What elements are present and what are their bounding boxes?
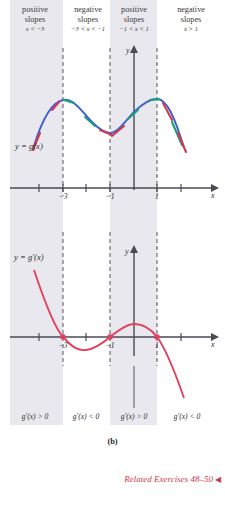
tangent-pos-b (85, 117, 95, 126)
related-exercises-text: Related Exercises 48–50 (124, 474, 213, 484)
upper-curve-label: y = g(x) (15, 141, 43, 151)
lower-tick-label-neg1: −1 (100, 341, 120, 350)
upper-x-axis-label: x (211, 191, 215, 200)
upper-tick-label-neg3: −3 (53, 192, 73, 201)
curve-g-prime (34, 270, 184, 398)
root-marker-pos1 (154, 334, 160, 340)
upper-dashed-guides (63, 48, 157, 196)
lower-tick-label-neg3: −3 (53, 341, 73, 350)
tangent-neg-d (112, 126, 124, 136)
lower-x-axis-label: x (211, 340, 215, 349)
tangent-pos-d (150, 99, 159, 100)
root-marker-neg1 (107, 334, 113, 340)
upper-tick-label-neg1: −1 (100, 192, 120, 201)
related-exercises: Related Exercises 48–50◀ (124, 474, 221, 484)
lower-y-axis-label: y (125, 247, 129, 256)
lower-tick-label-pos1: 1 (147, 341, 167, 350)
lower-curve-label: y = g′(x) (14, 252, 44, 262)
part-label: (b) (0, 437, 225, 446)
sign-interval-1: g′(x) > 0 (6, 412, 64, 421)
tangent-pos-a (64, 100, 74, 103)
upper-y-axis-label: y (126, 46, 130, 55)
upper-tick-label-pos1: 1 (147, 192, 167, 201)
sign-interval-4: g′(x) < 0 (158, 412, 216, 421)
tangent-pos-c (128, 110, 138, 119)
figure-b: positive slopes x < −3 negative slopes −… (0, 0, 225, 506)
tangent-neg-f (178, 133, 186, 152)
left-triangle-icon: ◀ (215, 475, 221, 484)
sign-row: g′(x) > 0 g′(x) < 0 g′(x) > 0 g′(x) < 0 (0, 412, 225, 426)
root-marker-neg3 (60, 334, 66, 340)
sign-interval-3: g′(x) > 0 (105, 412, 163, 421)
